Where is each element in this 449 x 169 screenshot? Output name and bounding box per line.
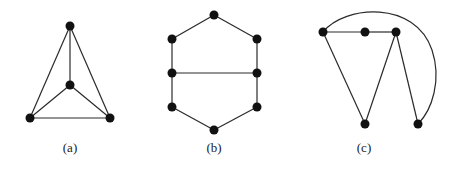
node-b7: [253, 103, 262, 112]
edge-c3-c5: [396, 32, 418, 124]
edge-b1-b3: [214, 15, 257, 39]
node-b2: [168, 35, 177, 44]
edge-c3-c4: [365, 32, 396, 124]
edge-a2-a3: [30, 85, 70, 118]
node-a4: [106, 114, 115, 123]
node-c5: [414, 120, 423, 129]
edge-a1-a4: [70, 26, 110, 118]
node-b3: [253, 35, 262, 44]
graph-figure: (a) (b) (c): [0, 0, 449, 169]
node-c2: [361, 28, 370, 37]
node-c1: [319, 28, 328, 37]
node-b4: [168, 69, 177, 78]
edge-b1-b2: [172, 15, 214, 39]
caption-b: (b): [206, 140, 221, 155]
edge-a1-a3: [30, 26, 70, 118]
caption-c: (c): [357, 140, 371, 155]
node-c4: [361, 120, 370, 129]
node-c3: [392, 28, 401, 37]
panel-c: (c): [319, 12, 437, 155]
node-b5: [253, 69, 262, 78]
node-b6: [168, 103, 177, 112]
edge-a2-a4: [70, 85, 110, 118]
node-b1: [210, 11, 219, 20]
panel-a: (a): [26, 22, 115, 156]
edge-c1-c4: [323, 32, 365, 124]
node-a3: [26, 114, 35, 123]
node-a2: [66, 81, 75, 90]
caption-a: (a): [63, 140, 77, 155]
edge-b6-b8: [172, 107, 214, 130]
node-b8: [210, 126, 219, 135]
edge-b7-b8: [214, 107, 257, 130]
node-a1: [66, 22, 75, 31]
panel-b: (b): [168, 11, 262, 156]
